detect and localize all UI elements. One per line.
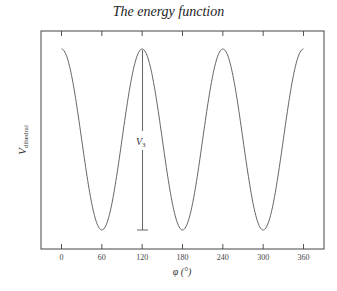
energy-curve	[62, 49, 304, 230]
svg-text:360: 360	[298, 253, 310, 262]
svg-text:0: 0	[60, 253, 64, 262]
plot-frame	[41, 31, 324, 249]
svg-text:300: 300	[257, 253, 269, 262]
svg-text:60: 60	[98, 253, 106, 262]
svg-text:180: 180	[177, 253, 189, 262]
v3-annotation: V3	[136, 50, 148, 230]
x-tick-labels: 060120180240300360	[60, 253, 310, 262]
x-ticks	[62, 31, 304, 249]
v3-label: V3	[136, 136, 146, 149]
svg-text:120: 120	[136, 253, 148, 262]
chart-canvas: 060120180240300360 V3 φ (°) Vdihedral	[0, 0, 337, 291]
y-axis-label: Vdihedral	[16, 125, 30, 155]
svg-text:240: 240	[217, 253, 229, 262]
x-axis-label: φ (°)	[173, 266, 192, 278]
